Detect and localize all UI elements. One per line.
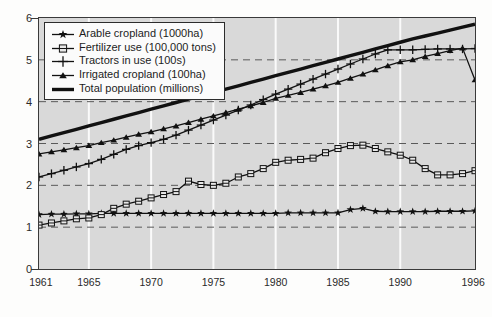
- legend-label: Arable cropland (1000ha): [76, 27, 203, 40]
- marker-star: [371, 207, 379, 214]
- y-tick-mark: [31, 269, 38, 270]
- x-tick-label: 1975: [202, 276, 225, 288]
- legend-marker-square-icon: [50, 41, 76, 54]
- y-tick-label: 5: [0, 54, 32, 66]
- legend-item[interactable]: Total population (millions): [50, 81, 216, 95]
- x-tick-label: 1990: [389, 276, 412, 288]
- marker-star: [48, 210, 56, 217]
- marker-star: [234, 209, 242, 216]
- marker-star: [122, 209, 130, 216]
- legend-item[interactable]: Irrigated cropland (100ha): [50, 68, 216, 82]
- chart-legend: Arable cropland (1000ha)Fertilizer use (…: [44, 22, 225, 100]
- y-tick-label: 6: [0, 12, 32, 24]
- legend-marker-triangle-icon: [50, 68, 76, 81]
- y-tick-label: 1: [0, 221, 32, 233]
- marker-star: [322, 209, 330, 216]
- y-tick-label: 3: [0, 138, 32, 150]
- legend-label: Tractors in use (100s): [76, 54, 186, 67]
- legend-marker-thick-line-icon: [50, 82, 76, 95]
- legend-item[interactable]: Arable cropland (1000ha): [50, 27, 216, 41]
- marker-star: [135, 209, 143, 216]
- marker-star: [185, 209, 193, 216]
- marker-star: [247, 209, 255, 216]
- marker-star: [309, 209, 317, 216]
- chart-figure: 0123456 19611965197019751980198519901996…: [0, 0, 492, 317]
- y-tick-label: 0: [0, 263, 32, 275]
- marker-star: [347, 206, 355, 213]
- marker-star: [421, 208, 429, 215]
- x-tick-label: 1985: [326, 276, 349, 288]
- y-tick-label: 2: [0, 179, 32, 191]
- marker-star: [459, 207, 467, 214]
- marker-star: [160, 209, 168, 216]
- y-tick-label: 4: [0, 96, 32, 108]
- legend-label: Fertilizer use (100,000 tons): [76, 41, 216, 54]
- marker-star: [59, 30, 68, 38]
- legend-item[interactable]: Tractors in use (100s): [50, 54, 216, 68]
- marker-star: [259, 209, 267, 216]
- x-tick-label: 1965: [77, 276, 100, 288]
- legend-marker-star-icon: [50, 27, 76, 40]
- marker-star: [384, 208, 392, 215]
- marker-star: [60, 210, 68, 217]
- marker-star: [359, 204, 367, 211]
- legend-label: Irrigated cropland (100ha): [76, 68, 206, 81]
- marker-star: [222, 209, 230, 216]
- marker-star: [434, 207, 442, 214]
- legend-marker-plus-icon: [50, 54, 76, 67]
- marker-star: [409, 208, 417, 215]
- marker-star: [297, 209, 305, 216]
- marker-star: [172, 209, 180, 216]
- legend-label: Total population (millions): [76, 82, 203, 95]
- x-tick-label: 1996: [461, 276, 484, 288]
- marker-star: [284, 209, 292, 216]
- x-tick-label: 1980: [264, 276, 287, 288]
- y-tick-mark: [31, 18, 38, 19]
- marker-triangle: [459, 45, 466, 50]
- marker-star: [446, 207, 454, 214]
- x-tick-label: 1970: [139, 276, 162, 288]
- legend-item[interactable]: Fertilizer use (100,000 tons): [50, 41, 216, 55]
- x-tick-label: 1961: [29, 276, 52, 288]
- marker-star: [197, 209, 205, 216]
